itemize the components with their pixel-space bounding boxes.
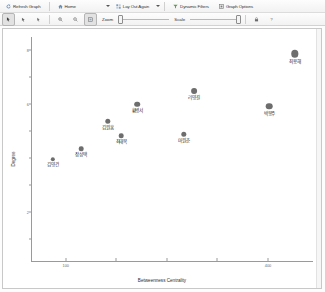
zoom-out-icon (73, 17, 78, 22)
lay-out-again-label: Lay Out Again (123, 4, 149, 9)
toolbar-separator (245, 15, 246, 24)
chevron-down-icon[interactable] (106, 5, 110, 7)
home-icon (58, 4, 63, 9)
layout-chevron-down-icon[interactable] (156, 5, 160, 7)
graph-toolbar-top: Refresh Graph Home Lay Out Again (0, 0, 325, 13)
y-axis-tick (29, 238, 32, 239)
select-icon (36, 17, 41, 22)
x-axis-tick-label: 100 (62, 263, 69, 268)
graph-pane: Refresh Graph Home Lay Out Again (0, 0, 325, 292)
scatter-point-label: 최태복 (116, 138, 128, 144)
y-axis-tick-label: 6 (21, 102, 29, 107)
zoom-in-icon (58, 17, 63, 22)
graph-options-label: Graph Options (226, 4, 253, 9)
y-axis-tick-label: 8 (21, 48, 29, 53)
scatter-point[interactable] (266, 103, 273, 110)
toolbar-separator (49, 15, 50, 24)
x-axis-tick (217, 258, 218, 261)
scatter-plot-area[interactable]: 100400268김영건장성택최태복김원홍황병서리영길마원춘박봉주최용해 (31, 37, 313, 262)
home-button[interactable]: Home (54, 0, 80, 13)
scatter-point-label: 최용해 (289, 58, 301, 64)
pan-icon (21, 17, 26, 22)
layout-icon (116, 4, 121, 9)
dynamic-filters-label: Dynamic Filters (180, 4, 209, 9)
zoom-label: Zoom (102, 17, 113, 22)
x-axis-tick (65, 258, 66, 261)
x-axis-tick (116, 258, 117, 261)
toolbar-separator (164, 2, 165, 11)
x-axis-title: Betweenness Centrality (3, 278, 321, 283)
y-axis-tick (29, 211, 32, 212)
y-axis-tick (29, 50, 32, 51)
x-axis-tick (268, 258, 269, 261)
pan-tool-button[interactable] (17, 13, 30, 26)
vertical-scrollbar[interactable] (316, 29, 321, 288)
options-icon (219, 4, 224, 9)
help-button[interactable]: ? (265, 13, 278, 26)
scatter-point-label: 김영건 (47, 161, 59, 167)
cursor-tool-button[interactable] (2, 13, 15, 26)
lock-button[interactable] (250, 13, 263, 26)
filter-icon (173, 4, 178, 9)
y-axis-title: Degree (11, 151, 16, 166)
dynamic-filters-button[interactable]: Dynamic Filters (169, 0, 213, 13)
fit-to-window-icon (88, 17, 93, 22)
graph-canvas[interactable]: Degree Betweenness Centrality 100400268김… (2, 28, 322, 289)
x-axis-tick (166, 258, 167, 261)
graph-toolbar-bottom: Zoom Scale ? (0, 13, 325, 26)
scatter-point-label: 마원춘 (178, 137, 190, 143)
scatter-point[interactable] (291, 50, 298, 57)
cursor-icon (6, 17, 11, 22)
scatter-point-label: 황병서 (132, 107, 144, 113)
zoom-out-button[interactable] (69, 13, 82, 26)
scale-label: Scale (174, 17, 185, 22)
x-axis-tick-label: 400 (265, 263, 272, 268)
lock-icon (254, 17, 259, 22)
help-icon: ? (269, 17, 274, 22)
zoom-slider-track[interactable] (123, 19, 169, 20)
zoom-in-button[interactable] (54, 13, 67, 26)
toolbar-separator (49, 2, 50, 11)
y-axis-tick (29, 131, 32, 132)
y-axis-tick (29, 104, 32, 105)
fit-to-window-button[interactable] (84, 13, 97, 26)
scale-slider-thumb[interactable] (236, 15, 241, 24)
scale-slider-track[interactable] (190, 19, 236, 20)
scale-slider[interactable] (190, 14, 241, 25)
y-axis-tick (29, 184, 32, 185)
scatter-point-label: 장성택 (75, 151, 87, 157)
y-axis-tick (29, 77, 32, 78)
scatter-point-label: 리영길 (188, 94, 200, 100)
select-tool-button[interactable] (32, 13, 45, 26)
lay-out-again-button[interactable]: Lay Out Again (112, 0, 153, 13)
refresh-graph-button[interactable]: Refresh Graph (2, 0, 45, 13)
refresh-icon (6, 4, 11, 9)
svg-text:?: ? (271, 17, 274, 22)
scatter-point-label: 김원홍 (102, 124, 114, 130)
refresh-graph-label: Refresh Graph (13, 4, 41, 9)
scatter-point-label: 박봉주 (264, 110, 276, 116)
home-label: Home (65, 4, 76, 9)
y-axis-tick (29, 157, 32, 158)
zoom-slider[interactable] (118, 14, 169, 25)
graph-options-button[interactable]: Graph Options (215, 0, 257, 13)
y-axis-tick-label: 2 (21, 209, 29, 214)
